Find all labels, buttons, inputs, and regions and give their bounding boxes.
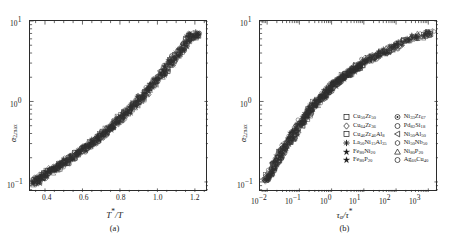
- legend-item-ni50nb50: Ni50Nb50: [393, 139, 429, 148]
- circled-dot-icon: [393, 113, 402, 121]
- legend-label: Pd82Si18: [404, 122, 426, 130]
- diamond-open-icon: [342, 122, 351, 130]
- panel-a-scatter-canvas: [30, 21, 208, 192]
- circle-open-2-icon: [393, 156, 402, 164]
- legend-label: Ni50Nb50: [404, 139, 428, 147]
- legend-label: La50Ni15Al35: [353, 139, 387, 147]
- legend-item-ni50al50: Ni50Al50: [393, 130, 429, 139]
- panel-a-xtick-3: 1.0: [153, 194, 163, 202]
- panel-b-xtick-1: 10−1: [285, 194, 301, 205]
- panel-b-xtick-2: 100: [320, 194, 332, 205]
- panel-a-ytick-10e1: 101: [10, 16, 22, 27]
- legend-label: Ni80P20: [404, 148, 423, 156]
- panel-b-legend: Cu50Zr50Ni33Zr67Cu64Zr36Pd82Si18Cu46Zr46…: [342, 113, 428, 165]
- panel-b-xtick-0: 10−2: [251, 194, 267, 205]
- asterisk-filled-icon: [342, 139, 351, 147]
- panel-b-caption: (b): [230, 223, 459, 233]
- panel-b-scatter-canvas: [260, 21, 438, 192]
- panel-a-xtick-0: 0.4: [42, 194, 52, 202]
- panel-a-x-axis-label: T*/T: [0, 207, 229, 220]
- triangle-left-open-icon: [393, 130, 402, 138]
- panel-b-y-axis-label: α2,max: [239, 124, 248, 142]
- panel-b-ytick-10e0: 100: [240, 97, 252, 108]
- legend-label: Fe80Ni20: [353, 148, 375, 156]
- panel-b-x-axis-label: τα/τ*: [230, 207, 459, 220]
- legend-item-fe80p20: Fe80P20: [342, 156, 387, 165]
- legend-label: Cu64Zr36: [353, 122, 376, 130]
- legend-label: Cu46Zr46Al8: [353, 131, 385, 139]
- hexagon-open-icon: [393, 139, 402, 147]
- panel-b-xtick-4: 102: [379, 194, 391, 205]
- panel-b-xtick-5: 103: [409, 194, 421, 205]
- panel-a-y-axis-label: α2,max: [9, 124, 18, 142]
- legend-item-ag60cu40: Ag60Cu40: [393, 156, 429, 165]
- panel-b-xtick-3: 101: [349, 194, 361, 205]
- figure-container: α2,max 101 100 10−1 0.4 0.6 0.8 1.0 1.2 …: [0, 0, 459, 240]
- square-open-2-icon: [342, 130, 351, 138]
- panel-b-ytick-10e-1: 10−1: [237, 178, 253, 189]
- legend-item-cu64zr36: Cu64Zr36: [342, 122, 387, 131]
- circle-open-icon: [393, 122, 402, 130]
- panel-a-xtick-1: 0.6: [79, 194, 89, 202]
- panel-a-xtick-2: 0.8: [116, 194, 126, 202]
- panel-a-caption: (a): [0, 223, 229, 233]
- legend-label: Ni33Zr67: [404, 113, 426, 121]
- panel-a-plot-area: [29, 20, 207, 191]
- panel-b-ytick-10e1: 101: [240, 16, 252, 27]
- panel-b: α2,max 101 100 10−1 Cu50Zr50Ni33Zr67Cu64…: [230, 0, 459, 240]
- panel-b-plot-area: Cu50Zr50Ni33Zr67Cu64Zr36Pd82Si18Cu46Zr46…: [259, 20, 437, 191]
- panel-a-xtick-4: 1.2: [190, 194, 200, 202]
- panel-a: α2,max 101 100 10−1 0.4 0.6 0.8 1.0 1.2 …: [0, 0, 229, 240]
- star-filled-2-icon: [342, 156, 351, 164]
- legend-item-pd82si18: Pd82Si18: [393, 122, 429, 131]
- legend-item-ni33zr67: Ni33Zr67: [393, 113, 429, 122]
- legend-label: Cu50Zr50: [353, 113, 376, 121]
- legend-label: Fe80P20: [353, 156, 372, 164]
- legend-label: Ni50Al50: [404, 131, 426, 139]
- triangle-up-open-icon: [393, 148, 402, 156]
- panel-a-ytick-10e0: 100: [10, 97, 22, 108]
- star-filled-icon: [342, 148, 351, 156]
- panel-a-ytick-10e-1: 10−1: [7, 178, 23, 189]
- square-open-icon: [342, 113, 351, 121]
- legend-label: Ag60Cu40: [404, 156, 429, 164]
